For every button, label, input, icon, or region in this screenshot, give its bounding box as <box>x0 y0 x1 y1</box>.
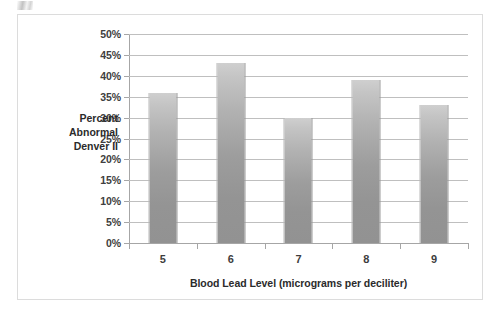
gridline <box>129 243 468 244</box>
bar-slot <box>332 34 400 243</box>
x-axis-tick <box>400 243 401 249</box>
x-axis-tick <box>468 243 469 249</box>
y-axis-tick-label: 20% <box>100 153 121 165</box>
bar[interactable] <box>148 93 177 243</box>
chart-frame: 0%5%10%15%20%25%30%35%40%45%50% Percent … <box>17 14 483 300</box>
y-axis-title-line-1: Percent <box>30 111 118 125</box>
y-axis-tick-label: 40% <box>100 70 121 82</box>
y-axis-title-line-3: Denver II <box>30 139 118 153</box>
bar-slot <box>400 34 468 243</box>
bar[interactable] <box>352 80 381 243</box>
y-axis-tick-label: 45% <box>100 49 121 61</box>
y-axis-tick-label: 15% <box>100 174 121 186</box>
bar[interactable] <box>284 118 313 243</box>
plot-area: 0%5%10%15%20%25%30%35%40%45%50% <box>129 34 468 243</box>
x-axis-tick <box>129 243 130 249</box>
y-axis-tick-label: 0% <box>106 237 121 249</box>
bar-slot <box>265 34 333 243</box>
y-axis-tick-label: 5% <box>106 216 121 228</box>
scan-artifact <box>17 1 33 10</box>
x-axis-tick-label: 6 <box>228 253 234 265</box>
y-axis-tick-label: 35% <box>100 91 121 103</box>
x-axis-title: Blood Lead Level (micrograms per decilit… <box>129 277 468 289</box>
x-axis-tick <box>332 243 333 249</box>
y-axis-tick-label: 10% <box>100 195 121 207</box>
x-axis-tick-label: 8 <box>363 253 369 265</box>
bar-slot <box>197 34 265 243</box>
y-axis-title: Percent Abnormal Denver II <box>30 111 118 153</box>
x-axis-tick <box>197 243 198 249</box>
bar-slot <box>129 34 197 243</box>
bar[interactable] <box>216 63 245 243</box>
y-axis-tick-label: 50% <box>100 28 121 40</box>
x-axis-tick-label: 9 <box>431 253 437 265</box>
x-axis-tick-label: 7 <box>295 253 301 265</box>
x-axis-tick-label: 5 <box>160 253 166 265</box>
bar[interactable] <box>420 105 449 243</box>
x-axis-tick <box>265 243 266 249</box>
y-axis-title-line-2: Abnormal <box>30 125 118 139</box>
